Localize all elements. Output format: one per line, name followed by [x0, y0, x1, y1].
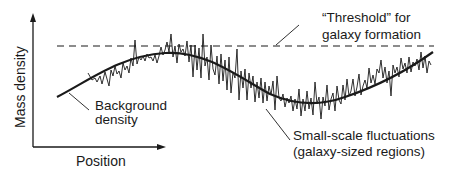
y-axis	[30, 13, 36, 147]
threshold-label-line1: “Threshold” for	[322, 10, 411, 25]
threshold-label-line2: galaxy formation	[322, 27, 421, 42]
background-label-line1: Background	[95, 98, 167, 113]
x-axis-arrow-icon	[157, 144, 166, 150]
fluctuations-label-line2: (galaxy-sized regions)	[293, 144, 425, 159]
fluctuations-leader-line	[266, 109, 290, 140]
diagram-canvas: Mass density Position Background density…	[0, 0, 450, 175]
background-density-curve	[57, 52, 433, 103]
y-axis-label: Mass density	[12, 46, 28, 128]
fluctuations-label-line1: Small-scale fluctuations	[293, 128, 435, 143]
y-axis-arrow-icon	[30, 13, 36, 22]
threshold-leader-line	[276, 25, 299, 45]
x-axis-label: Position	[76, 153, 126, 169]
background-leader-line	[69, 93, 89, 110]
x-axis	[33, 144, 166, 150]
background-label-line2: density	[95, 112, 138, 127]
